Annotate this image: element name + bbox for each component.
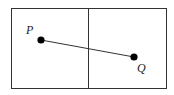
point-p — [37, 36, 44, 43]
label-p: P — [25, 23, 34, 37]
segment-pq — [41, 40, 134, 57]
diagram-canvas: P Q — [0, 0, 174, 95]
point-q — [130, 53, 137, 60]
label-q: Q — [137, 61, 146, 75]
